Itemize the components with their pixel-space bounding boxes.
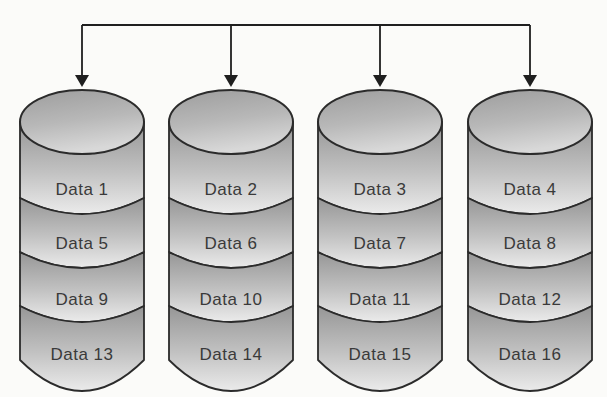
segment-label: Data 6	[204, 234, 257, 253]
segment-label: Data 15	[348, 345, 411, 364]
segment-label: Data 1	[55, 180, 108, 199]
segment-label: Data 13	[50, 345, 113, 364]
cylinder-2: Data 2Data 6Data 10Data 14	[169, 90, 293, 391]
cylinder-top-ellipse	[468, 90, 592, 154]
segment-label: Data 16	[498, 345, 561, 364]
cylinder-top-ellipse	[169, 90, 293, 154]
segment-label: Data 11	[349, 290, 411, 309]
segment-label: Data 10	[199, 290, 262, 309]
segment-label: Data 2	[204, 180, 257, 199]
cylinder-3: Data 3Data 7Data 11Data 15	[318, 90, 442, 391]
cylinder-top-ellipse	[20, 90, 144, 154]
segment-label: Data 4	[503, 180, 556, 199]
segment-label: Data 12	[498, 290, 561, 309]
segment-label: Data 3	[353, 180, 406, 199]
cylinder-1: Data 1Data 5Data 9Data 13	[20, 90, 144, 391]
segment-label: Data 14	[199, 345, 262, 364]
data-distribution-diagram: Data 1Data 5Data 9Data 13Data 2Data 6Dat…	[0, 0, 607, 397]
segment-label: Data 9	[55, 290, 108, 309]
segment-label: Data 7	[353, 234, 406, 253]
segment-label: Data 5	[55, 234, 108, 253]
diagram-canvas: Data 1Data 5Data 9Data 13Data 2Data 6Dat…	[0, 0, 607, 397]
cylinder-top-ellipse	[318, 90, 442, 154]
cylinder-4: Data 4Data 8Data 12Data 16	[468, 90, 592, 391]
segment-label: Data 8	[503, 234, 556, 253]
